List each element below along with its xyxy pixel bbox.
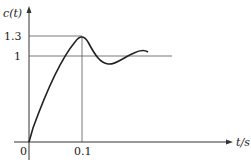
x-axis-label: t/s (236, 136, 250, 149)
y-axis-label: c(t) (3, 7, 22, 20)
x-tick-label-0-1: 0.1 (74, 145, 92, 158)
response-curve (29, 37, 148, 142)
step-response-diagram: c(t) 1.3 1 0 0.1 t/s (0, 0, 251, 165)
x-axis-arrow-icon (226, 140, 233, 145)
y-tick-label-1: 1 (14, 50, 21, 63)
y-axis-arrow-icon (27, 6, 32, 13)
y-tick-label-1-3: 1.3 (4, 30, 22, 43)
origin-label: 0 (20, 145, 27, 158)
